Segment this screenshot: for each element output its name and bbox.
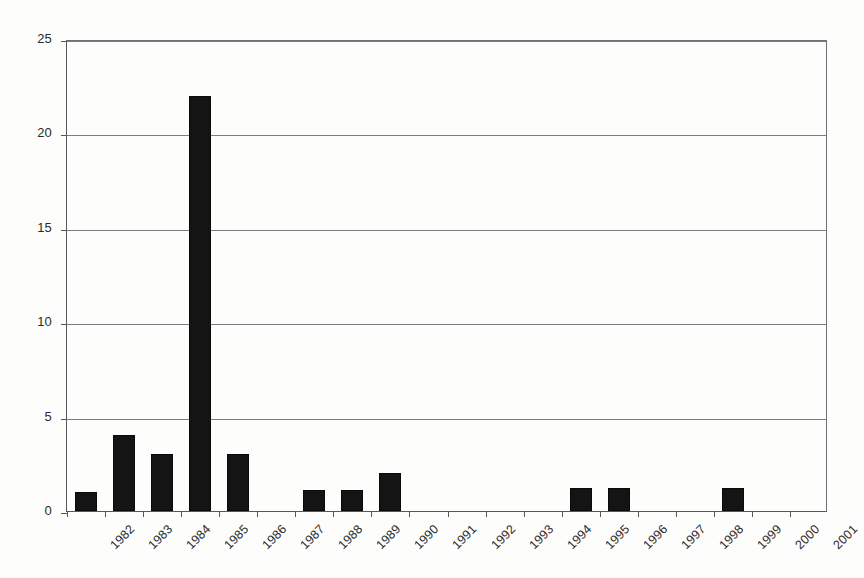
bar-1999 [722, 488, 744, 511]
x-axis-label-1988: 1988 [336, 522, 366, 552]
y-axis-label-10: 10 [0, 314, 52, 329]
x-tick-1985 [181, 511, 182, 517]
x-axis-label-1994: 1994 [564, 522, 594, 552]
bar-1988 [303, 490, 325, 511]
x-tick-1990 [371, 511, 372, 517]
x-tick-1997 [638, 511, 639, 517]
x-tick-1982 [67, 511, 68, 517]
x-tick-1986 [219, 511, 220, 517]
x-axis-label-1982: 1982 [107, 522, 137, 552]
x-tick-1996 [600, 511, 601, 517]
x-axis-label-2000: 2000 [792, 522, 822, 552]
x-tick-1984 [143, 511, 144, 517]
y-tick-0 [61, 513, 67, 514]
x-tick-1999 [714, 511, 715, 517]
x-axis-label-1990: 1990 [412, 522, 442, 552]
bar-1983 [113, 435, 135, 511]
x-axis-label-1992: 1992 [488, 522, 518, 552]
y-axis-label-15: 15 [0, 220, 52, 235]
x-tick-1991 [409, 511, 410, 517]
bar-1996 [608, 488, 630, 511]
bars-layer [67, 41, 826, 511]
x-tick-1987 [257, 511, 258, 517]
y-axis-label-0: 0 [0, 503, 52, 518]
x-axis-label-1984: 1984 [184, 522, 214, 552]
x-tick-1988 [295, 511, 296, 517]
x-axis-label-1998: 1998 [716, 522, 746, 552]
y-axis-label-5: 5 [0, 409, 52, 424]
x-axis-label-1996: 1996 [640, 522, 670, 552]
x-tick-1998 [676, 511, 677, 517]
x-tick-1983 [105, 511, 106, 517]
x-axis-label-1985: 1985 [222, 522, 252, 552]
bar-1984 [151, 454, 173, 511]
x-tick-2001 [790, 511, 791, 517]
bar-1985 [189, 96, 211, 511]
x-tick-1995 [562, 511, 563, 517]
x-tick-1992 [448, 511, 449, 517]
y-axis-label-25: 25 [0, 31, 52, 46]
x-axis-label-1993: 1993 [526, 522, 556, 552]
y-axis-label-20: 20 [0, 125, 52, 140]
x-axis-label-1999: 1999 [754, 522, 784, 552]
x-axis-label-1989: 1989 [374, 522, 404, 552]
bar-1990 [379, 473, 401, 511]
x-tick-1989 [333, 511, 334, 517]
x-tick-1994 [524, 511, 525, 517]
bar-1986 [227, 454, 249, 511]
x-axis-label-2001: 2001 [830, 522, 860, 552]
bar-1995 [570, 488, 592, 511]
x-tick-1993 [486, 511, 487, 517]
bar-chart-figure: 0510152025 19821983198419851986198719881… [0, 0, 864, 578]
x-axis-label-1997: 1997 [678, 522, 708, 552]
bar-1982 [75, 492, 97, 511]
x-tick-2000 [752, 511, 753, 517]
x-axis-label-1995: 1995 [602, 522, 632, 552]
x-axis-label-1991: 1991 [450, 522, 480, 552]
x-axis-label-1987: 1987 [298, 522, 328, 552]
x-axis-label-1983: 1983 [145, 522, 175, 552]
bar-1989 [341, 490, 363, 511]
x-axis-label-1986: 1986 [260, 522, 290, 552]
plot-area [66, 40, 827, 512]
